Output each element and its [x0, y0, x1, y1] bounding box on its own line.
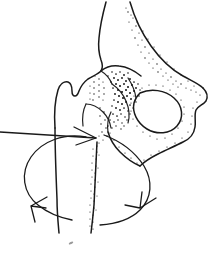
- figure-root: Hip joint rotation diagram Line drawing …: [0, 0, 221, 257]
- figure-background: [0, 0, 221, 257]
- hip-joint-illustration: Hip joint rotation diagram Line drawing …: [0, 0, 221, 257]
